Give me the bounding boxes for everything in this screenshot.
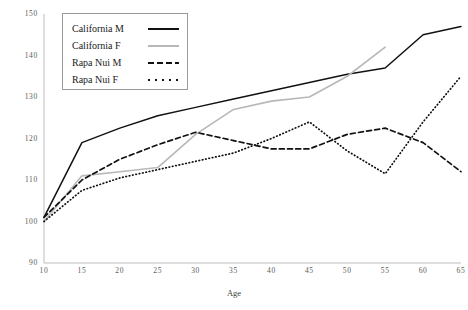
x-tick-60: 60 [410, 266, 436, 275]
legend-item-california-m: California M [72, 20, 180, 37]
x-tick-30: 30 [183, 266, 209, 275]
y-tick-110: 110 [8, 175, 38, 184]
solid-black-line-swatch-icon [146, 23, 180, 35]
line-chart: 90100110120130140150 1015202530354045505… [0, 0, 468, 310]
x-tick-25: 25 [145, 266, 171, 275]
legend-item-california-f: California F [72, 37, 180, 54]
x-tick-15: 15 [69, 266, 95, 275]
dotted-black-line-swatch-icon [146, 74, 180, 86]
x-tick-50: 50 [334, 266, 360, 275]
y-tick-140: 140 [8, 51, 38, 60]
legend-label-rapa-nui-f: Rapa Nui F [72, 74, 146, 85]
y-tick-100: 100 [8, 217, 38, 226]
x-axis-title: Age [0, 288, 468, 298]
legend-label-rapa-nui-m: Rapa Nui M [72, 57, 146, 68]
legend-item-rapa-nui-f: Rapa Nui F [72, 71, 180, 88]
x-tick-40: 40 [258, 266, 284, 275]
legend-label-california-m: California M [72, 23, 146, 34]
y-tick-150: 150 [8, 9, 38, 18]
x-tick-65: 65 [448, 266, 468, 275]
series-line-rapa-nui-f [44, 76, 461, 221]
x-tick-55: 55 [372, 266, 398, 275]
solid-gray-line-swatch-icon [146, 40, 180, 52]
x-tick-45: 45 [296, 266, 322, 275]
x-tick-35: 35 [221, 266, 247, 275]
x-tick-10: 10 [31, 266, 57, 275]
legend-item-rapa-nui-m: Rapa Nui M [72, 54, 180, 71]
dashed-black-line-swatch-icon [146, 57, 180, 69]
y-tick-120: 120 [8, 134, 38, 143]
y-tick-130: 130 [8, 92, 38, 101]
x-tick-20: 20 [107, 266, 133, 275]
legend-label-california-f: California F [72, 40, 146, 51]
legend: California M California F Rapa Nui M Rap… [62, 13, 188, 90]
